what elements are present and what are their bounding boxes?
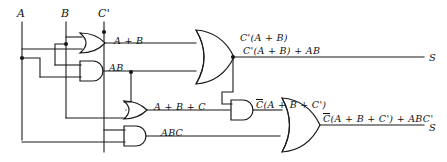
input-label-c: C'	[98, 8, 110, 19]
gate-or-top-body	[196, 30, 234, 84]
circuit-diagram-canvas: A B C' A + B AB C'(A + B) A + B + C ABC …	[0, 0, 447, 162]
gate-label-and-mid-rest: (A + B + C')	[264, 99, 327, 110]
gate-label-or-ab: A + B	[114, 36, 143, 46]
wire-about-to-or-abc	[124, 72, 131, 102]
output-expression-bottom-overline: C	[323, 114, 331, 124]
junction-a-mid	[20, 56, 24, 60]
gate-and-ab-body	[80, 61, 103, 81]
input-label-a: A	[17, 8, 25, 19]
gate-label-or-abc: A + B + C	[154, 102, 206, 112]
junction-ab-out	[129, 70, 133, 74]
gate-label-and-ab: AB	[109, 63, 123, 73]
gate-label-or-top: C'(A + B)	[240, 33, 288, 43]
gate-label-and-mid: C(A + B + C')	[256, 100, 326, 110]
input-label-b: B	[61, 8, 69, 19]
junction-b-top	[64, 42, 68, 46]
output-expression-bottom-rest: (A + B + C') + ABC'	[331, 113, 434, 124]
junction-or-out	[231, 55, 235, 59]
gate-or-ab-body	[80, 33, 105, 53]
circuit-svg	[0, 0, 447, 162]
output-symbol-bottom: S	[429, 123, 436, 133]
wire-a-to-and-ab	[22, 58, 40, 77]
output-expression-bottom: C(A + B + C') + ABC'	[323, 114, 433, 124]
gate-label-and-abc: ABC	[161, 128, 183, 138]
gate-and-mid-body	[231, 100, 253, 120]
gate-label-and-mid-overline: C	[256, 100, 264, 110]
output-expression-top: C'(A + B) + AB	[243, 46, 320, 56]
wire-b-to-and-ab	[55, 44, 66, 65]
gate-or-abc-body	[124, 101, 147, 119]
output-symbol-top: S	[429, 53, 436, 63]
gate-and-abc-body	[124, 126, 146, 146]
